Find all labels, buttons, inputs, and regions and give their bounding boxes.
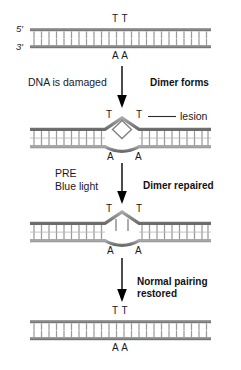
panel1-top-bases: T T — [112, 14, 128, 24]
backbone-bottom-distorted — [30, 241, 211, 246]
backbone-bottom-distorted — [30, 147, 211, 152]
label-5-prime: 5′ — [16, 24, 23, 34]
panel1-bottom-bases: A A — [112, 51, 129, 61]
step2-left-label-line2: Blue light — [55, 181, 98, 192]
panel3-thymine-right: T — [136, 204, 143, 214]
figure-canvas: 5′ 3′ T T A A DNA is damaged Dimer forms… — [0, 0, 241, 370]
step2-left-label-line1: PRE — [55, 168, 77, 179]
panel3-adenine-right: A — [135, 246, 142, 256]
base-rungs-top — [34, 31, 207, 38]
backbone-top-distorted — [30, 212, 211, 223]
backbone-top — [30, 28, 211, 31]
panel2-adenine-left: A — [107, 152, 114, 162]
lesion-label: lesion — [180, 111, 207, 122]
panel2-thymine-left: T — [106, 110, 113, 120]
base-rungs-bottom — [34, 331, 207, 337]
panel4-bottom-bases: A A — [112, 343, 129, 353]
panel3-adenine-left: A — [107, 246, 114, 256]
step2-right-label: Dimer repaired — [143, 181, 214, 191]
step1-right-label: Dimer forms — [150, 78, 209, 88]
step3-right-label-line2: restored — [137, 289, 177, 299]
step-3-arrow — [117, 258, 127, 302]
panel2-adenine-right: A — [135, 152, 142, 162]
base-rungs-bottom — [34, 39, 207, 45]
step1-left-label: DNA is damaged — [28, 77, 107, 88]
panel-normal-dna-graphic — [30, 28, 211, 48]
label-3-prime: 3′ — [16, 42, 23, 52]
backbone-top — [30, 320, 211, 323]
panel4-top-bases: T T — [112, 306, 128, 316]
backbone-bottom — [30, 337, 211, 340]
panel3-thymine-left: T — [106, 204, 113, 214]
backbone-bottom — [30, 45, 211, 48]
panel-restored-graphic — [30, 320, 211, 340]
base-rungs-top — [34, 323, 207, 330]
panel-dimer-repaired-graphic — [30, 212, 211, 245]
step3-right-label-line1: Normal pairing — [137, 277, 208, 287]
panel2-thymine-right: T — [136, 110, 143, 120]
